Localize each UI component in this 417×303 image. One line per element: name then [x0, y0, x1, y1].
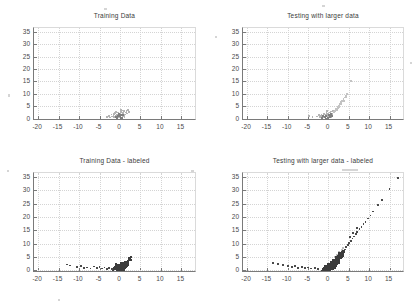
y-gridline: [243, 57, 403, 58]
scatter-point-labeled-left-tail: [83, 267, 85, 269]
scatter-point-labeled-core: [123, 268, 126, 271]
y-tick-mark: [243, 257, 246, 258]
scatter-point-labeled-diagonal: [389, 188, 391, 190]
scatter-point-labeled-left-tail: [282, 264, 284, 266]
scatter-point-labeled-diagonal: [372, 211, 374, 213]
scatter-point-labeled-core: [331, 264, 334, 267]
y-gridline: [34, 57, 195, 58]
y-tick-mark: [243, 244, 246, 245]
x-tick-label: -10: [73, 275, 82, 282]
scan-noise-speck: [410, 62, 412, 64]
y-tick-mark: [34, 32, 37, 33]
y-tick-label: 20: [225, 64, 239, 71]
scatter-point-labeled-left-tail: [317, 268, 319, 270]
scatter-point-labeled-diagonal: [370, 215, 372, 217]
scatter-point-labeled-upper-marks: [130, 259, 132, 261]
x-tick-label: 15: [385, 123, 392, 130]
scatter-point-labeled-below-axis: [331, 271, 333, 272]
y-tick-label: 30: [225, 186, 239, 193]
y-gridline: [243, 177, 403, 178]
scatter-point-labeled-diagonal: [352, 232, 354, 234]
plot-area-testing-larger-data-labeled: [242, 172, 404, 272]
y-gridline: [243, 119, 403, 120]
scan-noise-speck: [215, 36, 217, 38]
y-tick-label: 15: [16, 77, 30, 84]
x-tick-label: -15: [53, 275, 62, 282]
scatter-point-labeled-core: [337, 261, 340, 264]
y-tick-label: 25: [225, 199, 239, 206]
scatter-point-unlabeled-cluster: [326, 110, 328, 112]
scatter-point-unlabeled-streak: [345, 96, 347, 98]
y-gridline: [243, 94, 403, 95]
x-tick-label: 0: [117, 275, 121, 282]
y-gridline: [34, 244, 195, 245]
scatter-point-labeled-diagonal: [349, 236, 351, 238]
y-tick-label: 20: [225, 213, 239, 220]
y-tick-label: 35: [16, 173, 30, 180]
scatter-point-labeled-below-axis: [322, 271, 324, 272]
y-gridline: [34, 94, 195, 95]
y-tick-mark: [243, 204, 246, 205]
scatter-point-labeled-diagonal: [355, 233, 357, 235]
scatter-point-labeled-diagonal: [353, 236, 355, 238]
y-gridline: [243, 44, 403, 45]
x-tick-label: 0: [326, 275, 330, 282]
y-gridline: [34, 44, 195, 45]
scatter-point-unlabeled-core: [327, 117, 329, 119]
scatter-point-labeled-left-tail: [76, 266, 78, 268]
x-tick-label: -15: [53, 123, 62, 130]
x-tick-label: 10: [365, 123, 372, 130]
y-tick-label: 0: [16, 266, 30, 273]
y-gridline: [34, 32, 195, 33]
y-tick-label: 5: [16, 102, 30, 109]
y-tick-mark: [34, 244, 37, 245]
y-tick-mark: [34, 190, 37, 191]
y-tick-mark: [243, 69, 246, 70]
y-tick-mark: [34, 57, 37, 58]
y-tick-mark: [34, 217, 37, 218]
scatter-point-labeled-diagonal: [359, 228, 361, 230]
y-gridline: [243, 230, 403, 231]
x-tick-label: 0: [117, 123, 121, 130]
x-tick-label: 5: [138, 275, 142, 282]
y-tick-label: 30: [16, 40, 30, 47]
subplot-title-training-data: Training Data: [33, 12, 196, 19]
scatter-point-labeled-diagonal: [350, 240, 352, 242]
x-tick-label: 5: [346, 275, 350, 282]
scatter-point-labeled-left-tail: [90, 268, 92, 270]
y-tick-mark: [34, 81, 37, 82]
y-gridline: [34, 81, 195, 82]
scatter-point-unlabeled-streak: [346, 93, 348, 95]
y-tick-label: 35: [16, 27, 30, 34]
y-tick-label: 10: [16, 89, 30, 96]
scan-noise-speck: [342, 169, 358, 171]
scatter-point-labeled-core: [115, 263, 118, 266]
y-tick-label: 30: [225, 40, 239, 47]
y-tick-mark: [243, 217, 246, 218]
y-tick-mark: [243, 230, 246, 231]
y-tick-mark: [243, 190, 246, 191]
x-tick-label: -15: [262, 275, 271, 282]
y-gridline: [34, 177, 195, 178]
scatter-point-unlabeled-streak: [342, 101, 344, 103]
scatter-point-unlabeled-cluster: [124, 116, 126, 118]
x-tick-label: -20: [32, 275, 41, 282]
scan-noise-speck: [322, 5, 325, 7]
scatter-point-labeled-left-tail: [310, 268, 312, 270]
y-tick-mark: [243, 94, 246, 95]
y-tick-label: 5: [225, 102, 239, 109]
x-tick-label: 5: [346, 123, 350, 130]
y-gridline: [243, 190, 403, 191]
x-tick-label: -5: [96, 275, 102, 282]
y-gridline: [243, 69, 403, 70]
scatter-point-unlabeled-streak: [337, 107, 339, 109]
scatter-point-labeled-left-tail: [294, 265, 296, 267]
plot-area-testing-larger-data: [242, 27, 404, 120]
x-tick-label: -20: [32, 123, 41, 130]
scatter-point-labeled-diagonal: [348, 242, 350, 244]
y-tick-mark: [34, 270, 37, 271]
scan-noise-speck: [191, 170, 194, 172]
scatter-point-labeled-left-tail: [66, 264, 68, 266]
y-gridline: [243, 81, 403, 82]
y-tick-mark: [34, 94, 37, 95]
